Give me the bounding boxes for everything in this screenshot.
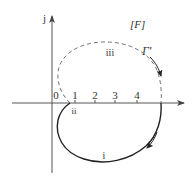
tick-label-1: 1 [72,89,78,101]
imaginary-axis-label: j [42,12,46,24]
contour-label: Γ' [141,44,152,58]
frame-label: [F] [130,18,145,30]
tick-label-3: 3 [112,89,118,101]
direction-arrow-upper [150,57,161,76]
segment-label-i: i [103,150,106,161]
tick-label-2: 2 [92,89,98,101]
tick-label-0: 0 [53,89,59,101]
segment-label-iii: iii [106,47,115,58]
nyquist-diagram: 0 1 2 3 4 j [F] Γ' i ii iii [0,0,196,183]
tick-label-4: 4 [134,89,140,101]
segment-label-ii: ii [71,106,77,116]
